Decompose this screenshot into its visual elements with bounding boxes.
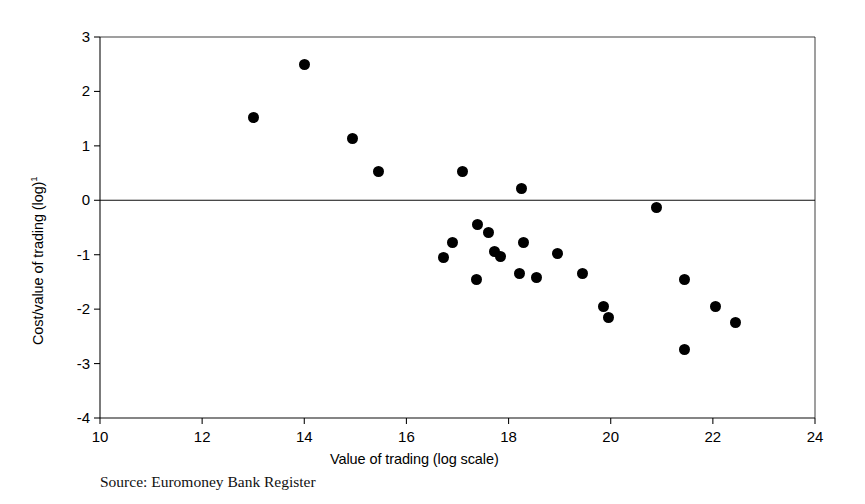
scatter-point xyxy=(679,274,690,285)
scatter-point xyxy=(248,112,259,123)
scatter-point xyxy=(651,202,662,213)
scatter-point xyxy=(603,312,614,323)
x-axis-tick-label: 18 xyxy=(489,428,529,445)
x-axis-tick-label: 14 xyxy=(284,428,324,445)
plot-axes xyxy=(0,0,865,504)
scatter-point xyxy=(299,59,310,70)
scatter-point xyxy=(516,183,527,194)
scatter-chart-figure: 3210-1-2-3-41012141618202224Value of tra… xyxy=(0,0,865,504)
x-axis-tick-label: 24 xyxy=(795,428,835,445)
y-axis-tick-label: -2 xyxy=(44,300,90,317)
y-axis-tick-label: -3 xyxy=(44,355,90,372)
y-axis-title-footnote-marker: 1 xyxy=(28,176,39,181)
y-axis-tick-label: -4 xyxy=(44,409,90,426)
y-axis-tick-label: 2 xyxy=(44,82,90,99)
source-note: Source: Euromoney Bank Register xyxy=(100,473,316,491)
y-axis-tick-label: 3 xyxy=(44,28,90,45)
scatter-point xyxy=(457,166,468,177)
y-axis-tick-label: 0 xyxy=(44,191,90,208)
scatter-point xyxy=(730,317,741,328)
x-axis-tick-label: 10 xyxy=(80,428,120,445)
x-axis-tick-label: 22 xyxy=(693,428,733,445)
scatter-point xyxy=(447,237,458,248)
scatter-point xyxy=(552,248,563,259)
x-axis-tick-label: 20 xyxy=(591,428,631,445)
x-axis-tick-label: 12 xyxy=(182,428,222,445)
x-axis-tick-label: 16 xyxy=(386,428,426,445)
x-axis-title: Value of trading (log scale) xyxy=(330,451,499,467)
y-axis-title: Cost/value of trading (log)1 xyxy=(28,176,46,345)
y-axis-tick-label: -1 xyxy=(44,246,90,263)
scatter-point xyxy=(598,301,609,312)
scatter-point xyxy=(495,251,506,262)
y-axis-tick-label: 1 xyxy=(44,137,90,154)
y-axis-title-text: Cost/value of trading (log) xyxy=(30,182,46,345)
